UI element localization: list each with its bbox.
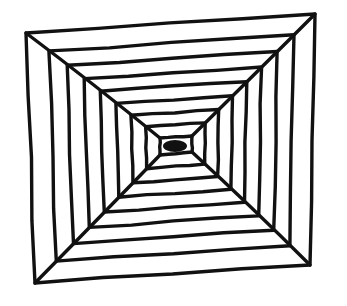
concentric-squares-sketch — [0, 0, 347, 306]
diagonal-top-right — [192, 14, 315, 136]
center-blob — [163, 140, 187, 152]
drawing-canvas — [0, 0, 347, 306]
